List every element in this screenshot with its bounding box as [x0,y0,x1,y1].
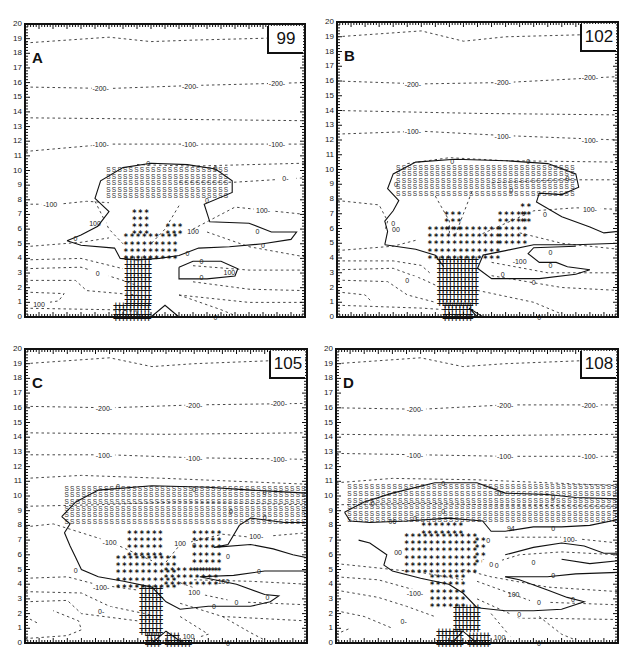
svg-text:S: S [129,173,134,180]
svg-text:S: S [409,497,414,504]
contour-label: 0 [551,572,555,579]
y-tick-label: 19 [320,33,334,41]
dashed-contour [337,201,388,232]
svg-text:S: S [168,192,173,199]
svg-text:S: S [520,190,525,197]
svg-text:S: S [458,170,463,177]
svg-text:S: S [483,490,488,497]
svg-text:S: S [245,491,250,498]
svg-text:S: S [533,483,538,490]
svg-text:S: S [432,503,437,510]
svg-text:S: S [402,183,407,190]
core-star-markers: ****************************************… [405,522,492,649]
svg-text:S: S [213,192,218,199]
dashed-contour [539,617,576,641]
svg-text:S: S [469,170,474,177]
y-tick-label: 19 [319,360,333,368]
svg-text:S: S [151,166,156,173]
svg-text:S: S [537,164,542,171]
svg-text:S: S [228,491,233,498]
svg-text:S: S [409,503,414,510]
svg-text:S: S [364,483,369,490]
svg-text:S: S [612,497,617,504]
y-tick-label: 14 [8,433,22,441]
y-tick-label: 8 [319,521,333,529]
svg-text:*: * [504,211,509,220]
svg-text:S: S [245,498,250,505]
svg-text:S: S [173,166,178,173]
svg-text:S: S [533,490,538,497]
time-label-box: 102 [580,24,616,52]
contour-label: 0 [551,525,555,532]
svg-text:S: S [418,190,423,197]
svg-text:S: S [511,503,516,510]
svg-text:S: S [396,190,401,197]
contour-label: 0 [235,599,239,606]
svg-text:S: S [205,491,210,498]
svg-text:S: S [138,498,143,505]
svg-text:S: S [151,173,156,180]
svg-text:S: S [520,183,525,190]
y-tick-label: 3 [320,269,334,277]
svg-text:S: S [486,177,491,184]
svg-text:S: S [447,177,452,184]
svg-text:S: S [140,173,145,180]
y-tick-label: 6 [8,551,22,559]
svg-text:S: S [93,505,98,512]
svg-text:S: S [81,511,86,518]
svg-text:S: S [533,510,538,517]
svg-text:S: S [573,483,578,490]
svg-text:S: S [500,497,505,504]
svg-text:S: S [173,186,178,193]
svg-text:S: S [353,483,358,490]
svg-text:S: S [471,497,476,504]
contour-label: 0 [551,494,555,501]
svg-text:S: S [106,186,111,193]
svg-text:S: S [402,177,407,184]
svg-text:S: S [550,503,555,510]
dashed-contour [25,201,109,204]
svg-text:S: S [104,491,109,498]
y-tick-label: 19 [8,360,22,368]
svg-text:S: S [183,511,188,518]
y-tick-label: 13 [320,121,334,129]
svg-text:*: * [138,209,143,218]
svg-text:S: S [166,511,171,518]
contour-label: -200- [186,402,203,409]
svg-text:S: S [488,497,493,504]
contour-label: -200- [582,74,599,81]
svg-text:S: S [392,483,397,490]
svg-text:S: S [132,485,137,492]
dashed-contour [25,403,307,407]
svg-text:S: S [155,511,160,518]
svg-text:S: S [155,498,160,505]
y-tick-label: 3 [8,269,22,277]
cloud-boundary [505,543,618,555]
y-tick-label: 2 [319,610,333,618]
contour-label: 100- [249,533,264,540]
contour-label: 0 [96,270,100,277]
contour-label: 0 [486,537,490,544]
svg-text:S: S [520,170,525,177]
svg-text:S: S [132,511,137,518]
contour-label: -200- [269,80,286,87]
y-tick-label: 20 [319,345,333,353]
svg-text:S: S [70,491,75,498]
contour-label: 0 [501,271,505,278]
svg-text:S: S [488,490,493,497]
svg-text:S: S [76,511,81,518]
svg-text:S: S [239,498,244,505]
panel-letter: D [343,374,354,391]
svg-text:S: S [528,483,533,490]
svg-text:*: * [452,522,457,531]
svg-text:S: S [443,490,448,497]
svg-text:S: S [143,518,148,525]
svg-text:S: S [200,498,205,505]
svg-text:S: S [211,511,216,518]
contour-label: -100- [186,455,203,462]
svg-text:S: S [573,503,578,510]
y-tick-label: 9 [8,507,22,515]
svg-text:S: S [162,173,167,180]
svg-text:S: S [542,164,547,171]
svg-text:S: S [424,190,429,197]
